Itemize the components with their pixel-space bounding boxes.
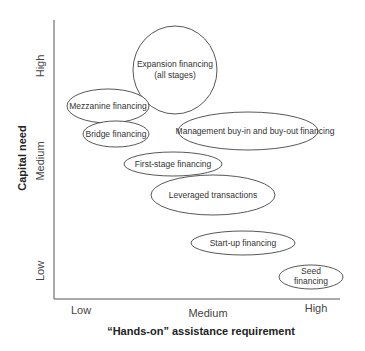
bubble-label: Seed — [301, 266, 321, 276]
x-tick-high: High — [305, 302, 328, 314]
y-tick-high: High — [34, 55, 46, 78]
x-tick-medium: Medium — [188, 307, 227, 319]
y-tick-medium: Medium — [34, 141, 46, 180]
bubble-leveraged-transactions: Leveraged transactions — [151, 175, 275, 215]
bubble-management-buyout-financing: Management buy-in and buy-out financing — [176, 112, 335, 150]
x-tick-low: Low — [71, 304, 91, 316]
x-axis-title: “Hands-on” assistance requirement — [107, 325, 295, 337]
bubble-label: First-stage financing — [135, 159, 212, 169]
bubble-label: Start-up financing — [210, 238, 277, 248]
y-axis-title: Capital need — [16, 125, 28, 190]
y-tick-low: Low — [34, 261, 46, 281]
bubble-first-stage-financing: First-stage financing — [124, 152, 222, 176]
bubble-seed-financing: Seed financing — [279, 265, 343, 289]
bubble-label: Management buy-in and buy-out financing — [176, 126, 335, 136]
bubble-startup-financing: Start-up financing — [191, 231, 295, 255]
bubble-mezzanine-financing: Mezzanine financing — [67, 89, 149, 123]
financing-diagram: High Medium Low Capital need Low Medium … — [0, 0, 365, 351]
bubble-label: Mezzanine financing — [69, 101, 147, 111]
bubble-label: Bridge financing — [86, 129, 147, 139]
bubble-label: (all stages) — [154, 70, 196, 80]
bubble-label: Expansion financing — [137, 59, 213, 69]
bubble-bridge-financing: Bridge financing — [83, 121, 149, 147]
bubble-label: Leveraged transactions — [169, 190, 257, 200]
bubble-label: financing — [294, 276, 328, 286]
